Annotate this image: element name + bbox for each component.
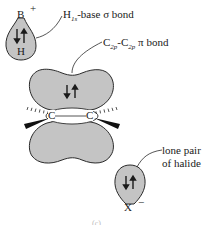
- pi-orbital-top-lobe: [29, 69, 113, 112]
- carbon-left-label: C: [48, 110, 55, 121]
- pi-bond-label: C2p-C2p π bond: [103, 36, 168, 53]
- lone-pair-leader-line: [137, 150, 162, 167]
- carbon-right-label: C: [86, 110, 93, 121]
- lone-pair-label-line1: lone pair: [162, 144, 201, 156]
- halide-charge: −: [138, 197, 144, 208]
- halide-atom-label: X: [124, 202, 132, 213]
- boron-charge: +: [30, 3, 36, 14]
- hashed-wedge-right-icon: [96, 107, 117, 114]
- figure-caption: (c): [92, 218, 101, 225]
- pi-orbital-bottom-lobe: [29, 120, 113, 163]
- sigma-leader-line: [36, 16, 62, 38]
- lone-pair-label-line2: of halide: [162, 157, 201, 169]
- sigma-bond-label: H1s-base σ bond: [63, 8, 134, 25]
- boron-atom-label: B: [17, 9, 24, 20]
- hydrogen-atom-label: H: [17, 46, 25, 57]
- pi-leader-line: [72, 42, 102, 73]
- orbital-diagram: [0, 0, 203, 225]
